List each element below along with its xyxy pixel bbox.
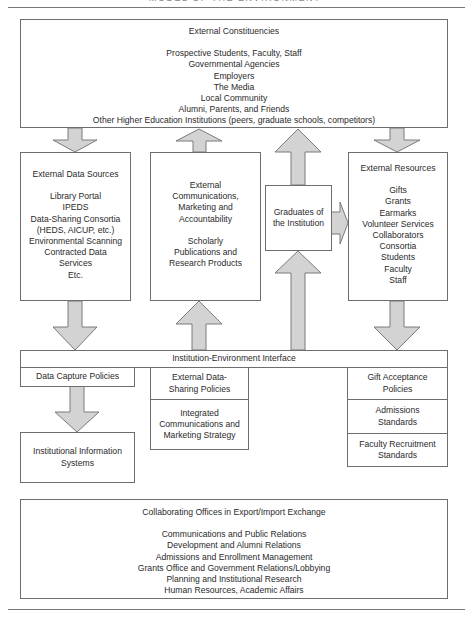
- gift-acceptance-policies-box: Gift Acceptance Policies: [347, 367, 448, 400]
- resource-item: Grants: [349, 196, 447, 207]
- arrow-up-icon: [275, 251, 321, 350]
- resource-item: Consortia: [349, 241, 447, 252]
- resource-item: Volunteer Services: [349, 219, 447, 230]
- constituency-item: Prospective Students, Faculty, Staff: [21, 48, 447, 59]
- data-source-item: Contracted Data: [21, 247, 130, 258]
- data-sharing-line: Sharing Policies: [169, 384, 231, 395]
- communications-line: Accountability: [151, 214, 260, 225]
- data-source-item: Data-Sharing Consortia: [21, 214, 130, 225]
- external-data-sources-title: External Data Sources: [21, 169, 130, 180]
- faculty-recruitment-line: Standards: [378, 450, 417, 461]
- institution-environment-interface-bar: Institution-Environment Interface: [20, 350, 448, 368]
- faculty-recruitment-standards-box: Faculty Recruitment Standards: [347, 433, 448, 467]
- external-constituencies-title: External Constituencies: [21, 26, 447, 37]
- arrow-right-icon: [331, 202, 348, 244]
- integrated-communications-box: Integrated Communications and Marketing …: [150, 399, 249, 450]
- data-source-item: (HEDS, AICUP, etc.): [21, 225, 130, 236]
- office-item: Grants Office and Government Relations/L…: [21, 563, 447, 574]
- collaborating-offices-box: Collaborating Offices in Export/Import E…: [20, 499, 448, 599]
- data-source-item: IPEDS: [21, 202, 130, 213]
- graduates-line: the Institution: [273, 218, 324, 229]
- constituency-item: Local Community: [21, 93, 447, 104]
- constituency-item: The Media: [21, 82, 447, 93]
- admissions-standards-box: Admissions Standards: [347, 399, 448, 434]
- data-capture-policies-box: Data Capture Policies: [20, 367, 135, 387]
- external-resources-title: External Resources: [349, 163, 447, 174]
- external-constituencies-box: External Constituencies Prospective Stud…: [20, 19, 448, 128]
- resource-item: Collaborators: [349, 230, 447, 241]
- data-capture-policies-label: Data Capture Policies: [36, 371, 119, 382]
- admissions-line: Admissions: [376, 405, 420, 416]
- integrated-comms-line: Communications and: [159, 419, 240, 430]
- integrated-comms-line: Marketing Strategy: [163, 430, 235, 441]
- resource-item: Faculty: [349, 264, 447, 275]
- constituency-item: Alumni, Parents, and Friends: [21, 104, 447, 115]
- arrow-up-icon: [176, 301, 222, 350]
- admissions-line: Standards: [378, 417, 417, 428]
- arrow-down-icon: [374, 301, 420, 350]
- external-communications-box: External Communications, Marketing and A…: [150, 152, 261, 301]
- communications-line: External: [151, 180, 260, 191]
- external-data-sharing-policies-box: External Data- Sharing Policies: [150, 367, 249, 400]
- publications-line: Publications and: [151, 247, 260, 258]
- integrated-comms-line: Integrated: [180, 408, 219, 419]
- resource-item: Staff: [349, 275, 447, 286]
- graduates-line: Graduates of: [274, 207, 324, 218]
- data-source-item: Library Portal: [21, 191, 130, 202]
- arrow-down-icon: [374, 128, 420, 152]
- faculty-recruitment-line: Faculty Recruitment: [359, 439, 435, 450]
- data-source-item: Services: [21, 258, 130, 269]
- office-item: Communications and Public Relations: [21, 529, 447, 540]
- resource-item: Gifts: [349, 185, 447, 196]
- constituency-item: Governmental Agencies: [21, 59, 447, 70]
- info-systems-line: Systems: [61, 458, 94, 469]
- resource-item: Earmarks: [349, 208, 447, 219]
- info-systems-line: Institutional Information: [33, 446, 122, 457]
- interface-title: Institution-Environment Interface: [172, 353, 296, 364]
- office-item: Human Resources, Academic Affairs: [21, 585, 447, 596]
- external-resources-box: External Resources Gifts Grants Earmarks…: [348, 152, 448, 301]
- resource-item: Students: [349, 252, 447, 263]
- office-item: Planning and Institutional Research: [21, 574, 447, 585]
- office-item: Development and Alumni Relations: [21, 540, 447, 551]
- arrow-down-icon: [55, 386, 99, 432]
- bottom-rule: [8, 609, 465, 610]
- communications-line: Communications,: [151, 191, 260, 202]
- gift-acceptance-line: Policies: [383, 384, 413, 395]
- external-data-sources-box: External Data Sources Library Portal IPE…: [20, 152, 131, 301]
- data-source-item: Environmental Scanning: [21, 236, 130, 247]
- graduates-box: Graduates of the Institution: [265, 185, 332, 251]
- data-source-item: Etc.: [21, 270, 130, 281]
- arrow-down-icon: [53, 128, 97, 152]
- office-item: Admissions and Enrollment Management: [21, 552, 447, 563]
- data-sharing-line: External Data-: [172, 372, 227, 383]
- publications-line: Research Products: [151, 258, 260, 269]
- institutional-information-systems-box: Institutional Information Systems: [20, 432, 135, 483]
- arrow-up-icon: [176, 129, 222, 152]
- constituency-item: Employers: [21, 71, 447, 82]
- communications-line: Marketing and: [151, 202, 260, 213]
- collaborating-offices-title: Collaborating Offices in Export/Import E…: [21, 507, 447, 518]
- constituency-item: Other Higher Education Institutions (pee…: [21, 115, 447, 126]
- arrow-up-icon: [275, 129, 321, 185]
- publications-line: Scholarly: [151, 236, 260, 247]
- arrow-down-icon: [53, 301, 97, 350]
- gift-acceptance-line: Gift Acceptance: [367, 372, 427, 383]
